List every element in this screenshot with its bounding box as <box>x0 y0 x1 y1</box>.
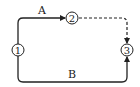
node-2: 2 <box>66 12 78 24</box>
edge-b-label: B <box>68 68 76 81</box>
network-diagram: A B 1 2 3 <box>0 0 140 87</box>
node-1: 1 <box>12 44 24 56</box>
edge-a-label: A <box>37 4 47 17</box>
node-1-label: 1 <box>15 45 21 56</box>
node-2-label: 2 <box>69 13 75 24</box>
edge-a <box>18 18 65 44</box>
node-3: 3 <box>121 44 133 56</box>
node-3-label: 3 <box>124 45 130 56</box>
edge-dashed <box>79 18 127 43</box>
